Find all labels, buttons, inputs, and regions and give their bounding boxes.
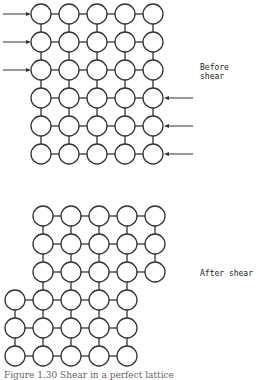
after-atom [33,206,53,226]
after-atom [117,318,137,338]
before-shear-label: Before shear [200,63,257,81]
after-atom [61,206,81,226]
before-atom [59,144,79,164]
before-atom [31,88,51,108]
after-atom [89,206,109,226]
after-atom [5,290,25,310]
after-atom [89,318,109,338]
arrowhead-icon [164,152,169,156]
after-atom [89,234,109,254]
after-atom [33,346,53,366]
before-atom [115,4,135,24]
after-atom [89,262,109,282]
before-atom [59,4,79,24]
before-atom [87,144,107,164]
after-atom [33,234,53,254]
before-atom [87,60,107,80]
before-atom [143,60,163,80]
after-atom [117,234,137,254]
before-atom [115,60,135,80]
after-atom [117,346,137,366]
before-atom [59,88,79,108]
after-atom [89,290,109,310]
arrowhead-icon [164,96,169,100]
after-atom [117,206,137,226]
after-atom [117,290,137,310]
figure-caption: Figure 1.30 Shear in a perfect lattice [4,370,174,380]
arrowhead-icon [26,68,31,72]
before-atom [115,32,135,52]
before-atom [31,60,51,80]
after-atom [145,262,165,282]
after-atom [145,206,165,226]
after-atom [5,318,25,338]
arrowhead-icon [164,124,169,128]
before-atom [143,32,163,52]
before-atom [115,116,135,136]
after-atom [61,234,81,254]
before-atom [59,32,79,52]
before-atom [31,144,51,164]
after-atom [33,262,53,282]
before-atom [143,144,163,164]
before-atom [59,116,79,136]
after-shear-label: After shear [200,269,253,278]
before-atom [87,4,107,24]
after-atom [117,262,137,282]
before-atom [31,116,51,136]
before-atom [59,60,79,80]
before-atom [87,32,107,52]
after-atom [61,262,81,282]
after-atom [61,290,81,310]
before-atom [143,4,163,24]
before-atom [115,88,135,108]
before-atom [31,4,51,24]
before-atom [87,88,107,108]
after-atom [61,346,81,366]
before-atom [143,116,163,136]
after-atom [33,290,53,310]
after-atom [33,318,53,338]
arrowhead-icon [26,40,31,44]
before-atom [115,144,135,164]
after-atom [61,318,81,338]
before-atom [143,88,163,108]
arrowhead-icon [26,12,31,16]
before-atom [31,32,51,52]
after-atom [5,346,25,366]
before-atom [87,116,107,136]
after-atom [145,234,165,254]
after-atom [89,346,109,366]
